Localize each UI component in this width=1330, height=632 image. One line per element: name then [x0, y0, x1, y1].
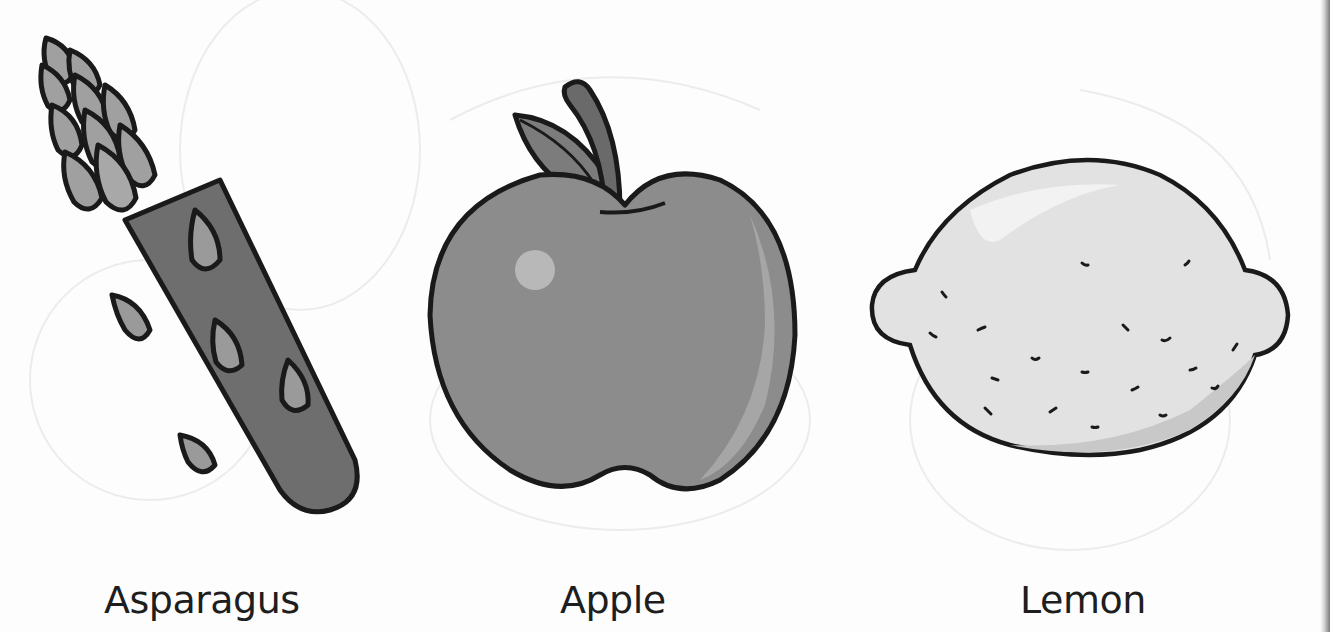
- lemon-illustration: [860, 150, 1300, 470]
- worksheet-page: Asparagus Apple Lemon: [0, 0, 1330, 632]
- item-label-asparagus: Asparagus: [104, 578, 300, 622]
- scan-page-edge: [1320, 0, 1330, 632]
- item-label-lemon: Lemon: [1020, 578, 1146, 622]
- asparagus-illustration: [30, 30, 360, 530]
- apple-illustration: [420, 75, 810, 505]
- item-label-apple: Apple: [560, 578, 666, 622]
